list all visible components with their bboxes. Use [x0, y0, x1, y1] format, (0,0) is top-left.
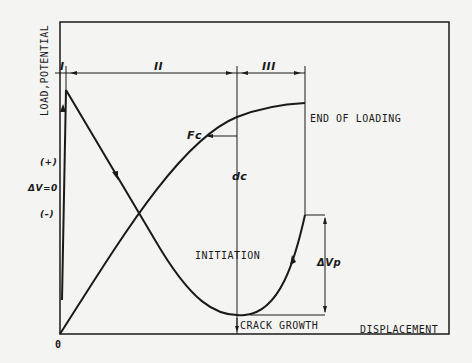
- crack-growth-label: CRACK GROWTH: [240, 320, 318, 331]
- region-i-label: I: [60, 60, 65, 73]
- end-of-loading-label: END OF LOADING: [310, 113, 401, 124]
- arrow-icon: [241, 71, 248, 75]
- potential-plus: (+): [40, 157, 57, 167]
- potential-line-rise: [62, 90, 66, 300]
- arrow-icon: [226, 71, 233, 75]
- dc-label: dc: [232, 170, 247, 183]
- region-ii-label: II: [154, 60, 163, 73]
- arrow-icon: [70, 71, 77, 75]
- arrow-icon: [323, 217, 327, 224]
- x-axis-label: DISPLACEMENT: [360, 324, 438, 335]
- potential-minus: (–): [40, 209, 54, 219]
- initiation-label: INITIATION: [195, 250, 260, 261]
- region-iii-label: III: [262, 60, 276, 73]
- arrow-icon: [323, 306, 327, 313]
- fc-label: Fc: [187, 129, 202, 142]
- delta-vp-label: ΔVp: [317, 257, 341, 268]
- y-axis-label: LOAD,POTENTIAL: [39, 25, 50, 116]
- potential-zero: ΔV=0: [28, 183, 58, 193]
- potential-curve: [66, 90, 305, 315]
- load-curve: [60, 103, 305, 334]
- direction-arrow-icon: [112, 171, 118, 180]
- arrow-icon: [235, 326, 239, 332]
- arrow-icon: [294, 71, 301, 75]
- origin-label: 0: [55, 339, 62, 350]
